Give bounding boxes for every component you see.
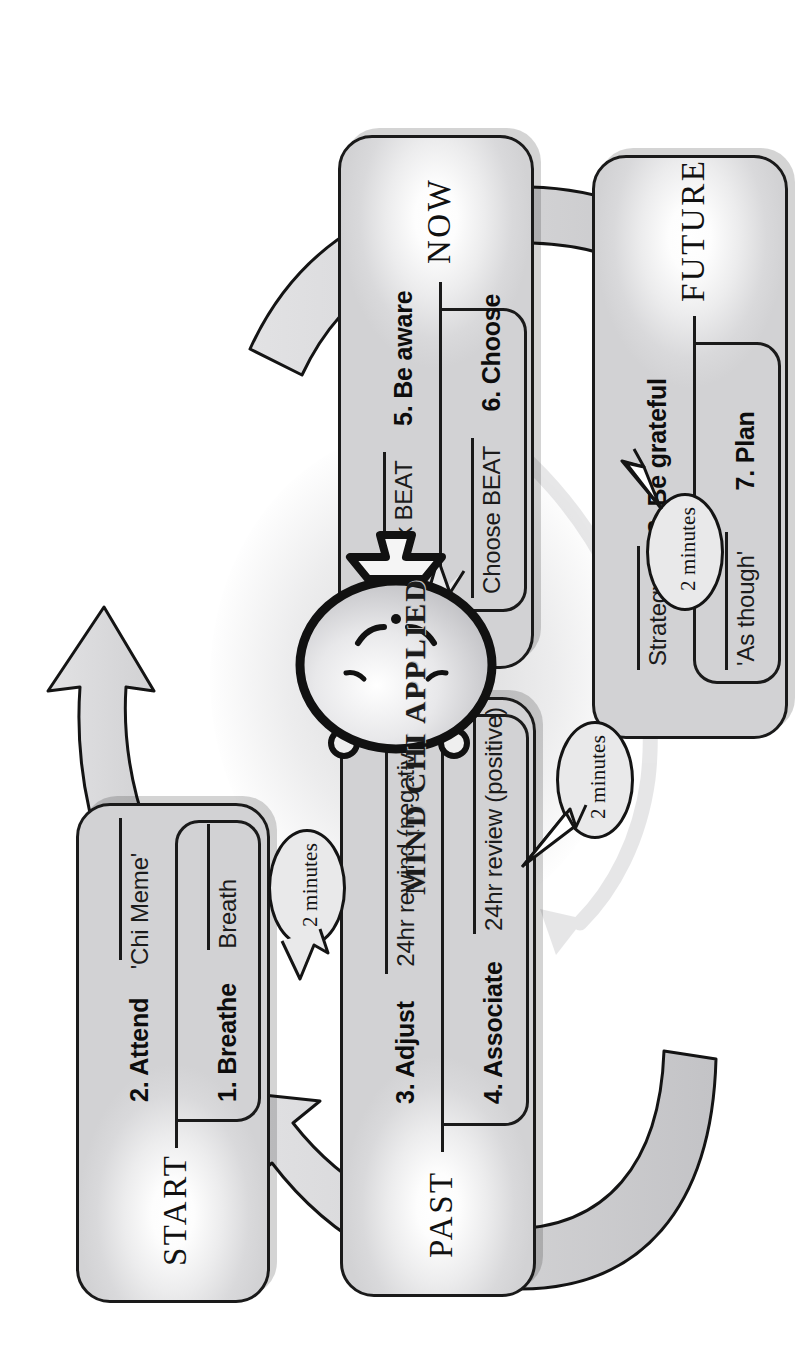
step-6-label: 6. Choose — [477, 294, 505, 412]
step-3-label: 3. Adjust — [391, 1001, 419, 1104]
step-row-1[interactable]: 1. Breathe Breath — [213, 879, 242, 1102]
step-2-note: 'Chi Meme' — [126, 853, 153, 970]
step-5-label: 5. Be aware — [389, 291, 417, 426]
era-label-past: PAST — [423, 1170, 460, 1258]
head-outline-icon — [300, 581, 492, 749]
step-8-underline — [637, 546, 640, 670]
era-label-now: NOW — [421, 178, 458, 264]
step-2-underline — [119, 818, 122, 960]
step-2-label: 2. Attend — [125, 998, 153, 1102]
step-row-7[interactable]: 'As though' 7. Plan — [731, 411, 760, 666]
quadrant-past[interactable]: PAST 4. Associate 24hr review (positive)… — [340, 697, 536, 1297]
step-4-label: 4. Associate — [479, 961, 507, 1104]
head-figure — [258, 521, 528, 771]
bubble-start-tail — [276, 925, 336, 981]
era-stem-now — [439, 282, 442, 308]
diagram-canvas: START 1. Breathe Breath 2. Attend 'Chi M… — [0, 0, 810, 1359]
era-label-future: FUTURE — [675, 159, 712, 302]
step-7-label: 7. Plan — [731, 411, 759, 490]
centre-label: MIND CHI APPLIED — [398, 578, 432, 895]
quadrant-start[interactable]: START 1. Breathe Breath 2. Attend 'Chi M… — [76, 803, 270, 1303]
bubble-past-tail — [520, 799, 590, 871]
bowtie-icon — [350, 535, 442, 579]
step-1-note: Breath — [214, 879, 241, 949]
era-stem-past — [441, 1126, 444, 1152]
step-1-underline — [207, 824, 210, 950]
head-icon — [258, 521, 528, 771]
step-7-note: 'As though' — [732, 551, 759, 666]
era-stem-future — [693, 316, 696, 342]
bubble-future-tail — [620, 447, 682, 511]
era-stem-start — [175, 1122, 178, 1148]
step-row-2[interactable]: 2. Attend 'Chi Meme' — [125, 853, 154, 1102]
era-label-start: START — [157, 1154, 194, 1266]
step-1-label: 1. Breathe — [213, 983, 241, 1102]
